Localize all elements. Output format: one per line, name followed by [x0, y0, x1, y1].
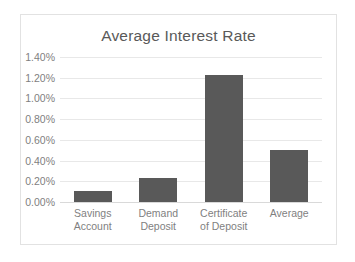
- x-axis-label-line: Savings: [60, 207, 126, 220]
- x-axis-category-label: Average: [257, 207, 323, 233]
- y-axis-tick-label: 0.20%: [25, 175, 55, 187]
- y-axis-tick-label: 1.40%: [25, 51, 55, 63]
- bar-slot: [191, 57, 257, 202]
- x-axis-category-label: Certificateof Deposit: [191, 207, 257, 233]
- x-axis-category-label: SavingsAccount: [60, 207, 126, 233]
- x-axis-label-line: Account: [60, 220, 126, 233]
- bar-series: [60, 57, 322, 202]
- x-axis-label-line: Demand: [126, 207, 192, 220]
- y-axis-tick-label: 0.60%: [25, 134, 55, 146]
- y-axis-tick-label: 1.20%: [25, 72, 55, 84]
- plot-area: 1.40%1.20%1.00%0.80%0.60%0.40%0.20%0.00%: [60, 57, 322, 202]
- x-axis-category-label: DemandDeposit: [126, 207, 192, 233]
- bar[interactable]: [139, 178, 177, 202]
- x-axis-label-line: Deposit: [126, 220, 192, 233]
- y-axis-tick-label: 1.00%: [25, 92, 55, 104]
- bar[interactable]: [270, 150, 308, 202]
- x-axis-label-line: of Deposit: [191, 220, 257, 233]
- bar-slot: [60, 57, 126, 202]
- y-axis-tick-label: 0.40%: [25, 155, 55, 167]
- x-axis-label-line: Certificate: [191, 207, 257, 220]
- bar[interactable]: [74, 191, 112, 202]
- x-axis-label-line: Average: [257, 207, 323, 220]
- bar-slot: [126, 57, 192, 202]
- y-axis-tick-label: 0.80%: [25, 113, 55, 125]
- chart-container: Average Interest Rate 1.40%1.20%1.00%0.8…: [20, 14, 337, 245]
- bar-slot: [257, 57, 323, 202]
- x-axis-labels: SavingsAccountDemandDepositCertificateof…: [60, 207, 322, 233]
- chart-title: Average Interest Rate: [21, 27, 336, 45]
- y-axis-tick-label: 0.00%: [25, 196, 55, 208]
- axis-baseline: 0.00%: [60, 202, 322, 203]
- bar[interactable]: [205, 75, 243, 202]
